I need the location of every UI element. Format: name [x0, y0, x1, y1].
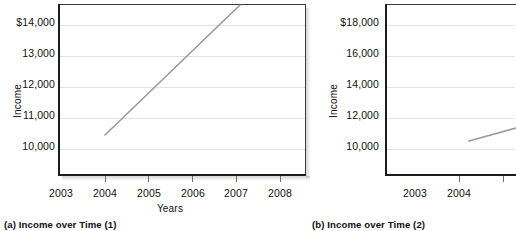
panel-b-xtick-2004	[459, 176, 460, 182]
panel-b-ytick-label-12000: 12,000	[316, 109, 379, 121]
panel-b-ytick-label-18000: $18,000	[316, 16, 379, 28]
panel-a-x-axis-title: Years	[130, 203, 210, 214]
panel-a-xtick-label-2008: 2008	[257, 187, 303, 199]
chart-panel-b: Income $18,000 16,000 14,000 12,000 10,0…	[316, 0, 516, 231]
panel-a-xtick-label-2003: 2003	[38, 187, 84, 199]
panel-a-plot-area	[58, 4, 306, 176]
panel-a-ytick-label-10000: 10,000	[2, 140, 55, 152]
panel-a-xtick-2004	[105, 176, 106, 182]
panel-a-ytick-label-12000: 12,000	[2, 78, 55, 90]
panel-b-xtick-label-2003: 2003	[392, 187, 438, 199]
panel-a-xtick-2006	[192, 176, 193, 182]
panel-b-plot-area	[385, 4, 516, 176]
panel-a-y-axis-line	[58, 4, 60, 176]
chart-panel-a: Income $14,000 13,000 12,000 11,000 10,0…	[0, 0, 320, 231]
panel-b-x-axis-line	[385, 174, 516, 176]
panel-b-xtick-label-2004: 2004	[436, 187, 482, 199]
panel-a-shadow-bottom	[62, 176, 310, 181]
panel-a-xtick-label-2005: 2005	[126, 187, 172, 199]
panel-b-caption: (b) Income over Time (2)	[312, 219, 425, 230]
panel-b-ytick-label-16000: 16,000	[316, 47, 379, 59]
panel-a-ytick-label-13000: 13,000	[2, 47, 55, 59]
panel-a-xtick-label-2006: 2006	[170, 187, 216, 199]
panel-a-xtick-2005	[148, 176, 149, 182]
panel-a-xtick-label-2004: 2004	[82, 187, 128, 199]
panel-a-ytick-label-14000: $14,000	[2, 16, 55, 28]
panel-b-y-axis-line	[385, 4, 387, 176]
panel-b-xtick-2005	[503, 176, 504, 182]
panel-b-series-line	[385, 4, 516, 176]
panel-a-xtick-2008	[280, 176, 281, 182]
panel-a-series-line	[58, 4, 306, 176]
panel-a-shadow-right	[306, 8, 311, 178]
panel-b-ytick-label-14000: 14,000	[316, 78, 379, 90]
panel-a-xtick-2007	[236, 176, 237, 182]
panel-a-ytick-label-11000: 11,000	[2, 109, 55, 121]
panel-a-caption: (a) Income over Time (1)	[4, 219, 117, 230]
panel-b-ytick-label-10000: 10,000	[316, 140, 379, 152]
panel-a-xtick-label-2007: 2007	[213, 187, 259, 199]
